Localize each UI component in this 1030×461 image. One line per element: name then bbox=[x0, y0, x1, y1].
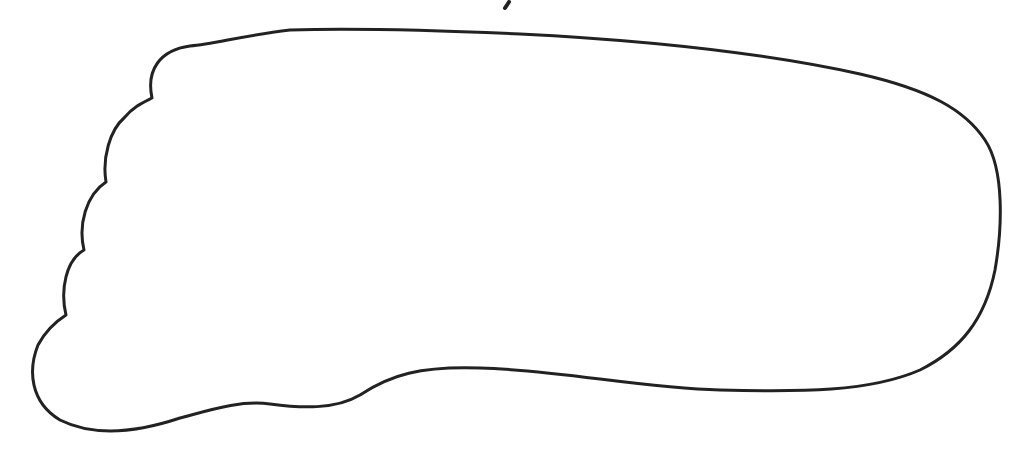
foot-outline-drawing bbox=[0, 0, 1030, 461]
foot-outline-path bbox=[33, 29, 1001, 431]
top-edge-tick-mark bbox=[505, 2, 509, 8]
